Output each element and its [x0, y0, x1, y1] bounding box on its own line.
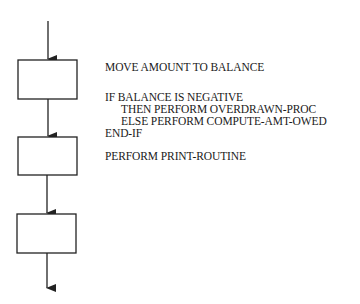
code-line-else: ELSE PERFORM COMPUTE-AMT-OWED [121, 115, 327, 127]
code-line-move: MOVE AMOUNT TO BALANCE [105, 61, 264, 73]
code-line-if: IF BALANCE IS NEGATIVE [105, 91, 243, 103]
code-line-then: THEN PERFORM OVERDRAWN-PROC [121, 103, 316, 115]
code-line-endif: END-IF [105, 127, 142, 139]
process-box-step-1 [18, 60, 77, 99]
process-box-step-2 [18, 137, 77, 175]
process-box-step-3 [17, 214, 76, 253]
code-line-perform: PERFORM PRINT-ROUTINE [105, 150, 246, 162]
